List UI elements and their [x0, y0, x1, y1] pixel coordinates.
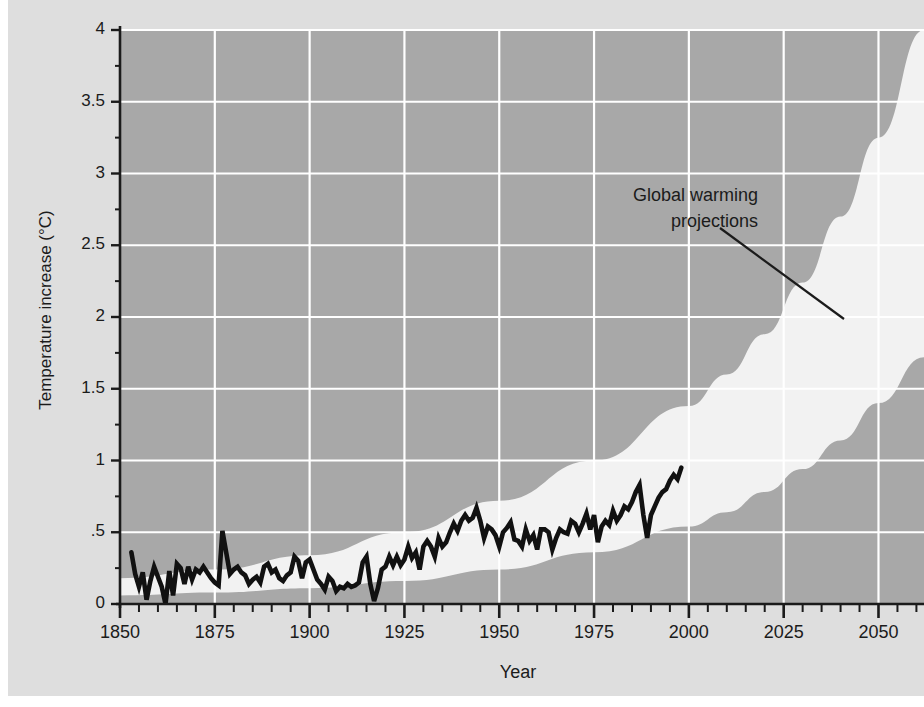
y-tick-label: .5: [59, 521, 105, 541]
x-tick-label: 1925: [364, 622, 444, 643]
y-tick-label: 2.5: [59, 234, 105, 254]
x-tick-label: 2000: [649, 622, 729, 643]
x-tick-label: 1850: [80, 622, 160, 643]
y-tick-label: 2: [59, 306, 105, 326]
x-axis-title: Year: [118, 662, 918, 683]
y-tick-label: 1: [59, 450, 105, 470]
y-tick-marks: [111, 30, 120, 604]
x-tick-label: 1950: [459, 622, 539, 643]
y-tick-label: 3: [59, 163, 105, 183]
x-tick-marks: [120, 604, 916, 618]
x-tick-label: 1900: [270, 622, 350, 643]
x-tick-label: 2025: [744, 622, 824, 643]
y-axis-title: Temperature increase (°C): [36, 180, 56, 440]
x-tick-label: 2050: [838, 622, 918, 643]
annotation-line-1: Global warming: [568, 182, 758, 208]
figure-panel: 0.511.522.533.54 18501875190019251950197…: [8, 0, 924, 696]
y-tick-label: 1.5: [59, 378, 105, 398]
x-tick-label: 1875: [175, 622, 255, 643]
y-tick-label: 3.5: [59, 91, 105, 111]
annotation-global-warming-projections: Global warming projections: [568, 182, 758, 234]
chart-canvas: [8, 0, 924, 696]
y-tick-label: 4: [59, 19, 105, 39]
y-tick-label: 0: [59, 593, 105, 613]
x-tick-label: 1975: [554, 622, 634, 643]
annotation-line-2: projections: [568, 208, 758, 234]
